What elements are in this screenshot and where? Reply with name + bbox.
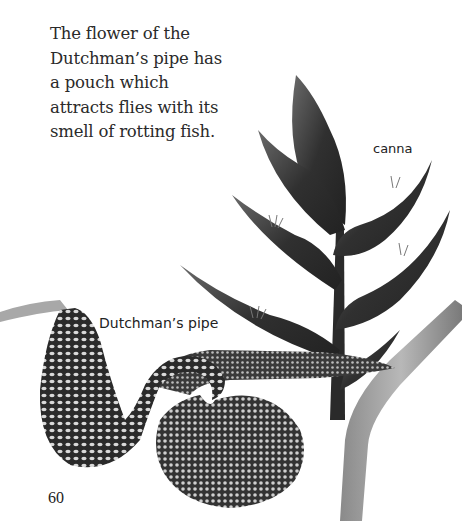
caption-line: attracts flies with its — [50, 98, 218, 117]
caption-line: Dutchman’s pipe has — [50, 49, 222, 68]
dutchmans-pipe-label: Dutchman’s pipe — [99, 315, 218, 331]
canna-stem — [340, 300, 462, 521]
caption-line: a pouch which — [50, 73, 169, 92]
page-number: 60 — [48, 489, 64, 507]
caption-line: smell of rotting fish. — [50, 122, 215, 141]
caption-line: The flower of the — [50, 24, 190, 43]
canna-label: canna — [373, 141, 413, 156]
caption-text: The flower of the Dutchman’s pipe has a … — [50, 22, 290, 145]
pipe-lobe — [156, 395, 304, 508]
